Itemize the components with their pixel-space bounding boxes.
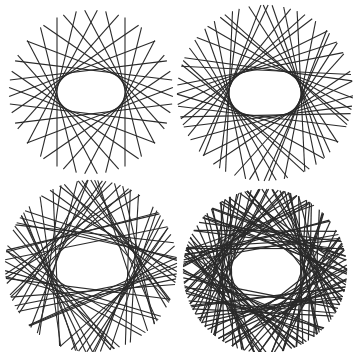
panel-top-left — [9, 10, 173, 174]
tangent-line — [27, 41, 173, 96]
tangent-line — [41, 27, 77, 172]
envelope-diagram — [0, 0, 362, 352]
panel-bottom-left — [5, 180, 177, 352]
tangent-line — [190, 196, 297, 305]
tangent-line — [15, 104, 172, 123]
tangent-line — [5, 190, 131, 274]
tangent-line — [106, 11, 142, 156]
tangent-line — [9, 88, 155, 143]
tangent-line — [10, 61, 167, 80]
figure — [0, 0, 362, 352]
tangent-line — [10, 104, 167, 123]
panel-top-right — [177, 5, 353, 181]
tangent-line — [177, 53, 343, 85]
tangent-line — [15, 61, 172, 80]
panel-bottom-right — [183, 189, 347, 352]
tangent-line — [115, 183, 155, 324]
tangent-line — [249, 7, 338, 143]
tangent-line — [11, 285, 175, 298]
